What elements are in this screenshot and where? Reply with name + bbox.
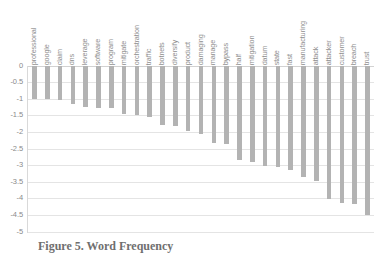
bar: [71, 66, 76, 104]
bar: [250, 66, 255, 162]
category-label: leverage: [81, 38, 88, 65]
bar: [186, 66, 191, 131]
category-label: botnets: [158, 42, 165, 65]
category-label: damaging: [196, 34, 203, 65]
bar: [199, 66, 204, 134]
category-label: traffic: [145, 48, 152, 65]
y-axis-tick-label: -4.5: [10, 211, 23, 219]
y-axis-tick-label: -3: [17, 161, 23, 169]
category-label: state: [273, 50, 280, 65]
category-label: claim: [55, 49, 62, 65]
category-label: trust: [363, 52, 370, 65]
bar: [135, 66, 140, 115]
bar: [224, 66, 229, 144]
category-label: bypass: [222, 43, 229, 65]
bar: [314, 66, 319, 181]
bar: [58, 66, 63, 100]
y-axis-tick-label: 0: [19, 62, 23, 70]
y-axis-tick-label: -4: [17, 194, 23, 202]
bar: [160, 66, 165, 125]
bar: [212, 66, 217, 143]
bar: [32, 66, 37, 99]
category-label: manufacturing: [299, 21, 306, 65]
category-label: professional: [30, 27, 37, 65]
bar-chart: 0-0.5-1-1.5-2-2.5-3-3.5-4-4.5-5 professi…: [0, 0, 379, 236]
bar: [237, 66, 242, 160]
bar: [147, 66, 152, 117]
y-axis-tick-label: -1.5: [10, 111, 23, 119]
bar: [45, 66, 50, 99]
category-label: half: [235, 54, 242, 65]
category-label: software: [94, 39, 101, 65]
y-axis-tick-label: -5: [17, 228, 23, 236]
y-axis: 0-0.5-1-1.5-2-2.5-3-3.5-4-4.5-5: [0, 66, 25, 233]
y-axis-tick-label: -0.5: [10, 78, 23, 86]
bar: [276, 66, 281, 167]
category-label: attacker: [324, 40, 331, 65]
category-label: breach: [350, 44, 357, 65]
category-label: customer: [337, 36, 344, 65]
category-label: diversify: [171, 40, 178, 65]
category-label: dns: [68, 54, 75, 65]
category-axis-labels: professionalgoogleclaimdnsleveragesoftwa…: [28, 0, 374, 66]
category-label: mitigation: [248, 35, 255, 65]
bar-series: [28, 66, 374, 232]
figure-caption-text: Figure 5. Word Frequency: [38, 240, 338, 253]
bar: [83, 66, 88, 107]
category-label: orchestration: [132, 25, 139, 65]
figure-caption: Figure 5. Word Frequency: [38, 240, 338, 256]
bar: [288, 66, 293, 170]
bar: [122, 66, 127, 114]
y-axis-tick-label: -3.5: [10, 178, 23, 186]
figure-container: 0-0.5-1-1.5-2-2.5-3-3.5-4-4.5-5 professi…: [0, 0, 379, 256]
category-label: datum: [260, 45, 267, 65]
bar: [352, 66, 357, 204]
category-label: program: [107, 39, 114, 65]
bar: [365, 66, 370, 215]
category-label: mitigate: [119, 41, 126, 65]
category-label: attack: [312, 46, 319, 65]
category-label: product: [183, 42, 190, 65]
y-axis-tick-label: -1: [17, 95, 23, 103]
bar: [173, 66, 178, 126]
bar: [340, 66, 345, 203]
bar: [263, 66, 268, 166]
bar: [327, 66, 332, 199]
bar: [96, 66, 101, 108]
category-label: manage: [209, 40, 216, 65]
category-label: fast: [286, 54, 293, 65]
y-axis-tick-label: -2.5: [10, 145, 23, 153]
bar: [301, 66, 306, 177]
bar: [109, 66, 114, 108]
y-axis-tick-label: -2: [17, 128, 23, 136]
category-label: google: [43, 44, 50, 65]
